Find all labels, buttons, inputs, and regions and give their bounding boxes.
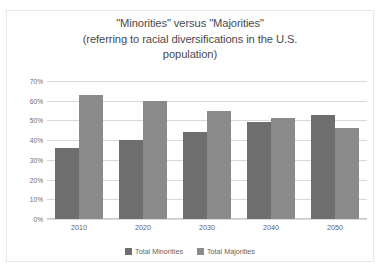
x-axis-tick-label-2010: 2010	[51, 223, 107, 232]
bars-layer	[47, 81, 367, 219]
x-axis-labels: 20102020203020402050	[47, 223, 367, 232]
legend-swatch-icon	[125, 248, 132, 255]
bar-group-2040	[247, 81, 295, 219]
y-axis-tick-label: 60%	[30, 97, 43, 104]
bar-total-majorities-2010[interactable]	[79, 95, 103, 219]
legend-item-total-minorities[interactable]: Total Minorities	[125, 247, 183, 256]
chart-title: "Minorities" versus "Majorities" (referr…	[7, 16, 373, 63]
plot-area: 70%60%50%40%30%20%10%0%	[47, 81, 367, 219]
y-axis-tick-label: 20%	[30, 176, 43, 183]
x-axis-tick-label-2020: 2020	[115, 223, 171, 232]
y-axis-tick-label: 70%	[30, 78, 43, 85]
legend-label: Total Minorities	[135, 247, 183, 256]
legend-item-total-majorities[interactable]: Total Majorities	[197, 247, 255, 256]
y-axis-tick-label: 30%	[30, 156, 43, 163]
bar-total-majorities-2030[interactable]	[207, 111, 231, 219]
bar-total-majorities-2020[interactable]	[143, 101, 167, 219]
bar-total-minorities-2040[interactable]	[247, 122, 271, 219]
bar-total-minorities-2050[interactable]	[311, 115, 335, 219]
bar-total-majorities-2050[interactable]	[335, 128, 359, 219]
x-axis-tick-label-2030: 2030	[179, 223, 235, 232]
bar-total-majorities-2040[interactable]	[271, 118, 295, 219]
legend-label: Total Majorities	[207, 247, 255, 256]
legend-swatch-icon	[197, 248, 204, 255]
bar-group-2020	[119, 81, 167, 219]
bar-group-2050	[311, 81, 359, 219]
bar-group-2030	[183, 81, 231, 219]
chart-title-line-1: "Minorities" versus "Majorities"	[7, 16, 373, 32]
bar-total-minorities-2020[interactable]	[119, 140, 143, 219]
chart-title-line-2: (referring to racial diversifications in…	[7, 32, 373, 48]
y-axis-tick-label: 40%	[30, 137, 43, 144]
chart-legend: Total MinoritiesTotal Majorities	[7, 247, 373, 256]
chart-title-line-3: population)	[7, 47, 373, 63]
gridline: 0%	[47, 219, 367, 220]
x-axis-tick-label-2050: 2050	[307, 223, 363, 232]
chart-container: "Minorities" versus "Majorities" (referr…	[6, 10, 374, 262]
bar-group-2010	[55, 81, 103, 219]
x-axis-tick-label-2040: 2040	[243, 223, 299, 232]
bar-total-minorities-2030[interactable]	[183, 132, 207, 219]
y-axis-tick-label: 10%	[30, 196, 43, 203]
y-axis-tick-label: 50%	[30, 117, 43, 124]
bar-total-minorities-2010[interactable]	[55, 148, 79, 219]
y-axis-tick-label: 0%	[33, 216, 43, 223]
